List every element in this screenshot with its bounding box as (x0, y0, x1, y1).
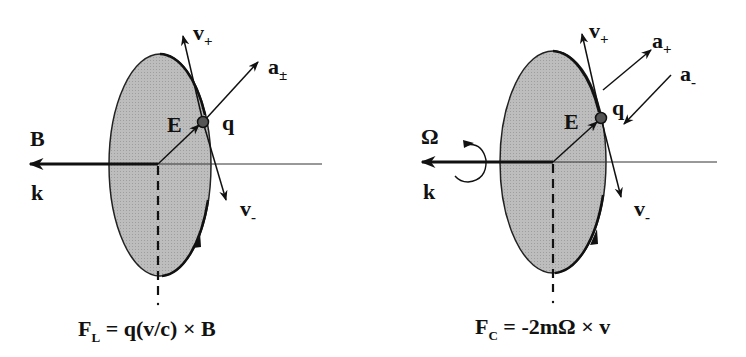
accel-plus-label: a+ (652, 30, 672, 52)
diagram-canvas: B k E q v+ a± v- FL = q(v/c) × B Ω k E q… (0, 0, 746, 357)
b-field-label: B (30, 128, 45, 150)
v-plus-label: v+ (589, 20, 609, 42)
right-panel-graphics (422, 34, 717, 303)
accel-label: a± (268, 56, 287, 78)
diagram-graphics (0, 0, 746, 357)
accel-plus-vector (603, 50, 651, 90)
accel-minus-label: a- (680, 63, 696, 85)
charge-particle (596, 113, 607, 124)
axis-dot (157, 303, 159, 305)
lorentz-force-formula: FL = q(v/c) × B (78, 318, 216, 340)
accel-minus-vector (624, 75, 671, 124)
charge-label: q (612, 97, 624, 119)
k-axis-label: k (31, 182, 43, 204)
v-minus-label: v- (634, 198, 650, 220)
coriolis-force-formula: FC = -2mΩ × v (475, 316, 610, 338)
e-vector-label: E (167, 114, 182, 136)
charge-particle (198, 117, 209, 128)
v-minus-label: v- (240, 198, 256, 220)
omega-label: Ω (421, 126, 439, 148)
v-plus-label: v+ (193, 22, 213, 44)
axis-dot (552, 301, 554, 303)
k-axis-label: k (423, 181, 435, 203)
e-vector-label: E (564, 111, 579, 133)
charge-label: q (222, 112, 234, 134)
